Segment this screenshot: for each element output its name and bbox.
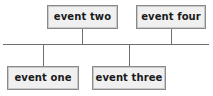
- node-label-event-four: event four: [141, 12, 201, 22]
- node-box-event-four[interactable]: event four: [136, 5, 206, 29]
- node-label-event-one: event one: [14, 73, 71, 83]
- diagram-canvas: event twoevent fourevent oneevent three: [0, 0, 213, 96]
- connector-event-two: [82, 29, 83, 44]
- node-box-event-one[interactable]: event one: [7, 66, 79, 90]
- node-label-event-two: event two: [54, 12, 111, 22]
- connector-event-three: [129, 44, 130, 66]
- node-label-event-three: event three: [96, 73, 163, 83]
- horizontal-bus-line: [3, 44, 209, 45]
- node-box-event-two[interactable]: event two: [47, 5, 118, 29]
- node-box-event-three[interactable]: event three: [92, 66, 166, 90]
- connector-event-one: [43, 44, 44, 66]
- connector-event-four: [171, 29, 172, 44]
